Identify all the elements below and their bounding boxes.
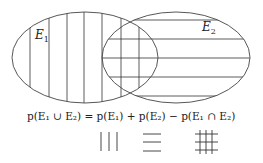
legend-crosshatch-icon (195, 130, 218, 154)
label-e2-main: E (202, 20, 211, 34)
ellipse-e1 (12, 12, 158, 103)
union-formula: p(E₁ ∪ E₂) = p(E₁) + p(E₂) − p(E₁ ∩ E₂) (27, 110, 237, 122)
venn-diagram (0, 0, 263, 163)
ellipse-e2 (102, 12, 250, 103)
legend-horizontal-hatch-icon (143, 134, 161, 151)
label-e2: E2 (202, 20, 216, 36)
legend-vertical-hatch-icon (101, 132, 117, 151)
e1-vertical-hatch (30, 0, 139, 110)
label-e1-main: E (35, 28, 44, 42)
label-e2-sub: 2 (211, 27, 216, 36)
label-e1-sub: 1 (44, 35, 49, 44)
label-e1: E1 (35, 28, 49, 44)
